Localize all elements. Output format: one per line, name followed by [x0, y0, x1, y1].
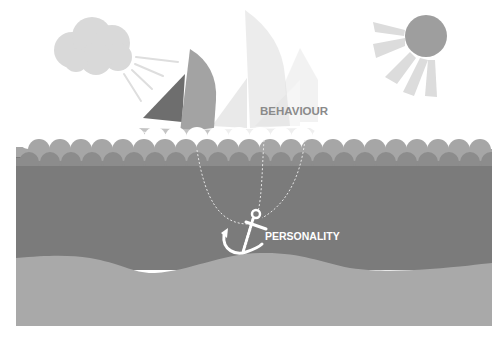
sun-icon — [373, 15, 447, 97]
behaviour-label: BEHAVIOUR — [260, 105, 329, 117]
behaviour-personality-illustration: BEHAVIOUR PERSONALITY — [0, 0, 504, 342]
cloud-icon — [54, 17, 132, 75]
personality-label: PERSONALITY — [265, 230, 340, 242]
